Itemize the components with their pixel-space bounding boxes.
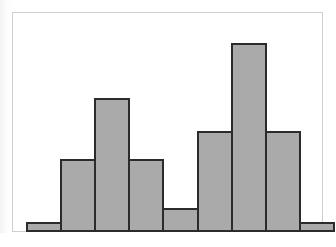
plot-frame bbox=[12, 12, 323, 232]
histogram-bar bbox=[60, 159, 96, 232]
histogram-bar bbox=[231, 43, 267, 232]
caption-strip bbox=[0, 233, 336, 247]
histogram-bar bbox=[128, 159, 164, 232]
plot-area bbox=[26, 26, 335, 232]
histogram-bar bbox=[94, 98, 130, 232]
x-axis-line bbox=[26, 230, 335, 232]
histogram-figure bbox=[0, 0, 336, 247]
histogram-bar bbox=[265, 131, 301, 232]
histogram-bars bbox=[26, 38, 335, 232]
histogram-bar bbox=[197, 131, 233, 232]
histogram-bar bbox=[162, 208, 198, 232]
